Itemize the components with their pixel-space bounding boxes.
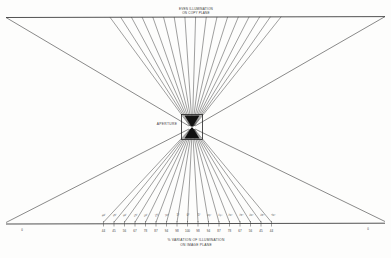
angle-label-15: 30°: [249, 212, 254, 217]
ray-upper-2: [121, 17, 191, 126]
upper-ray-fan: [110, 17, 281, 127]
ray-upper-7: [174, 17, 192, 126]
copy-plane-label-line1: EVEN ILLUMINATION: [179, 7, 213, 11]
pct-label-10: 98: [196, 229, 200, 233]
pct-label-5: 78: [144, 229, 148, 233]
angle-label-2: 35°: [112, 212, 117, 217]
angle-label-13: 20°: [228, 212, 233, 217]
angle-label-14: 25°: [239, 212, 244, 217]
ray-upper-3: [131, 17, 190, 126]
ray-upper-10: [193, 17, 207, 126]
angle-label-16: 35°: [260, 212, 265, 217]
angle-label-4: 25°: [133, 212, 138, 217]
pct-label-6: 87: [154, 229, 158, 233]
right-end-label: 0: [367, 227, 369, 231]
envelope-lower-left: [6, 129, 189, 223]
diagram-canvas: EVEN ILLUMINATION ON COPY PLANE: [0, 0, 391, 258]
ray-lower-1: [104, 129, 191, 222]
ray-lower-15: [194, 129, 251, 222]
angle-label-8: 5°: [177, 213, 180, 217]
angle-label-9: 0°: [187, 213, 190, 217]
pct-label-9: 100: [185, 229, 190, 233]
percent-label-group: 44 45 56 67 78 87 94 98 100 98 94 87 78 …: [102, 229, 274, 233]
angle-label-12: 15°: [218, 213, 223, 218]
ray-upper-14: [193, 17, 249, 126]
pct-label-4: 67: [133, 229, 137, 233]
ray-upper-9: [192, 17, 195, 126]
caption-line2: ON IMAGE PLANE: [180, 243, 212, 247]
pct-label-13: 78: [228, 229, 232, 233]
ray-upper-8: [185, 17, 192, 126]
copy-plane-label-line2: ON COPY PLANE: [182, 11, 210, 15]
left-end-label: 0: [21, 228, 23, 232]
pct-label-8: 98: [175, 229, 179, 233]
image-plane-line: [6, 223, 385, 224]
lower-ray-fan: [104, 129, 272, 222]
angle-label-11: 10°: [207, 213, 212, 218]
pct-label-16: 45: [259, 229, 263, 233]
angle-label-group: 40° 35° 30° 25° 20° 15° 10° 5° 0° 5° 10°…: [101, 212, 276, 217]
ray-upper-17: [194, 17, 281, 127]
pct-label-2: 45: [112, 229, 116, 233]
pct-label-11: 94: [207, 229, 211, 233]
angle-label-3: 30°: [122, 212, 127, 217]
pct-label-12: 87: [217, 229, 221, 233]
pct-label-15: 56: [249, 229, 253, 233]
ray-lower-3: [125, 129, 191, 222]
ray-upper-11: [193, 17, 217, 126]
angle-label-5: 20°: [143, 212, 148, 217]
pct-label-1: 44: [102, 229, 106, 233]
ray-upper-6: [164, 17, 192, 126]
ray-upper-16: [194, 17, 271, 127]
aperture-label: APERTURE: [157, 122, 178, 126]
envelope-lower-right: [195, 129, 385, 222]
envelope-upper-left: [6, 18, 189, 127]
ray-lower-4: [135, 129, 191, 222]
ray-upper-15: [194, 17, 260, 127]
optics-diagram-figure: EVEN ILLUMINATION ON COPY PLANE: [0, 0, 391, 258]
pct-label-14: 67: [238, 229, 242, 233]
pct-label-17: 44: [270, 229, 274, 233]
pct-label-7: 94: [165, 229, 169, 233]
angle-label-6: 15°: [154, 213, 159, 218]
angle-label-17: 40°: [271, 212, 276, 217]
ray-upper-5: [153, 17, 191, 126]
ray-upper-12: [193, 17, 228, 126]
ray-upper-13: [193, 17, 238, 126]
ray-upper-1: [110, 17, 190, 126]
pct-label-3: 56: [123, 229, 127, 233]
ray-lower-16: [194, 129, 261, 222]
envelope-upper-right: [195, 17, 385, 126]
angle-label-7: 10°: [164, 213, 169, 218]
angle-label-10: 5°: [198, 213, 201, 217]
angle-label-1: 40°: [101, 212, 106, 217]
caption-line1: % VARIATION OF ILLUMINATION: [167, 238, 224, 242]
ray-upper-4: [142, 17, 191, 126]
